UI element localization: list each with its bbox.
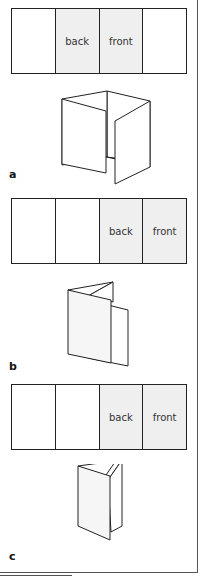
panel-a-3: front — [100, 9, 144, 73]
panel-a-2: back — [56, 9, 100, 73]
panel-strip-a: back front — [11, 8, 187, 74]
figure-label-c: c — [9, 550, 16, 563]
panel-c-3: back — [100, 385, 144, 449]
panel-b-3: back — [100, 199, 144, 263]
panel-c-2 — [56, 385, 100, 449]
panel-c-4: front — [143, 385, 186, 449]
panel-b-4: front — [143, 199, 186, 263]
figure-label-a: a — [9, 168, 16, 181]
panel-strip-b: back front — [11, 198, 187, 264]
panel-a-4 — [143, 9, 186, 73]
panel-c-1 — [12, 385, 56, 449]
figure-label-b: b — [9, 360, 17, 373]
frame-bottom-rule — [0, 575, 72, 576]
roll-fold-illustration — [0, 464, 200, 564]
panel-b-1 — [12, 199, 56, 263]
gate-fold-illustration — [0, 85, 200, 185]
accordion-fold-illustration — [0, 280, 200, 380]
panel-b-2 — [56, 199, 100, 263]
panel-strip-c: back front — [11, 384, 187, 450]
frame-bottom-border — [0, 572, 198, 573]
panel-a-1 — [12, 9, 56, 73]
